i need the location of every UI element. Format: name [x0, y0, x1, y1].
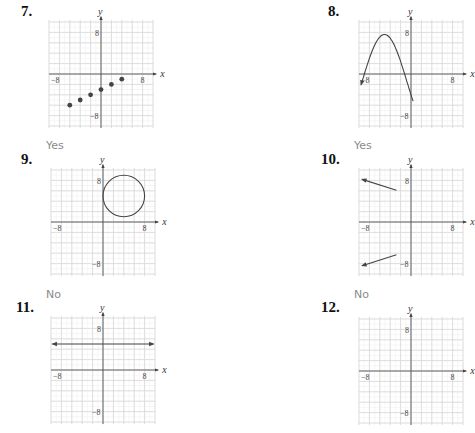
y-tick-pos: 8: [97, 325, 101, 334]
x-tick-neg: −8: [361, 373, 370, 382]
problem-10-answer: No: [354, 288, 369, 301]
x-axis-label: x: [469, 68, 475, 79]
x-tick-pos: 8: [451, 224, 455, 233]
x-tick-neg: −8: [51, 76, 60, 85]
data-point: [119, 77, 124, 82]
data-point: [109, 82, 114, 87]
problem-9-number: 9.: [21, 151, 32, 168]
problem-10-graph: −888−8xy: [355, 156, 475, 281]
x-tick-pos: 8: [143, 224, 147, 233]
data-point: [78, 98, 83, 103]
data-point: [67, 103, 72, 108]
x-tick-pos: 8: [451, 76, 455, 85]
x-axis-label: x: [469, 365, 475, 376]
problem-11-number: 11.: [16, 299, 34, 316]
x-axis-label: x: [161, 216, 167, 227]
y-tick-pos: 8: [97, 177, 101, 186]
y-tick-neg: −8: [400, 112, 409, 121]
problem-7-number: 7.: [21, 3, 32, 20]
curve: [361, 35, 413, 102]
x-axis-label: x: [161, 364, 167, 375]
x-axis-label: x: [159, 68, 165, 79]
problem-10-number: 10.: [321, 151, 340, 168]
x-tick-pos: 8: [143, 372, 147, 381]
y-axis-label: y: [407, 154, 413, 165]
y-tick-neg: −8: [90, 112, 99, 121]
y-tick-pos: 8: [405, 29, 409, 38]
lower-ray: [362, 255, 396, 266]
y-axis-label: y: [99, 302, 105, 313]
x-tick-pos: 8: [451, 373, 455, 382]
y-tick-neg: −8: [92, 408, 101, 417]
problem-12-number: 12.: [321, 299, 340, 316]
problem-7-graph: −888−8xy: [45, 8, 165, 133]
y-tick-neg: −8: [400, 409, 409, 418]
y-tick-pos: 8: [405, 326, 409, 335]
problem-12-graph: −888−8xy: [355, 305, 475, 430]
upper-ray: [362, 179, 396, 190]
x-axis-label: x: [469, 216, 475, 227]
y-tick-pos: 8: [405, 177, 409, 186]
y-tick-pos: 8: [95, 29, 99, 38]
problem-9-graph: −888−8xy: [47, 156, 167, 281]
x-tick-neg: −8: [53, 224, 62, 233]
problem-9-answer: No: [46, 288, 61, 301]
data-point: [99, 87, 104, 92]
y-axis-label: y: [99, 154, 105, 165]
problem-8-number: 8.: [328, 3, 339, 20]
y-axis-label: y: [407, 6, 413, 17]
x-tick-neg: −8: [361, 224, 370, 233]
y-tick-neg: −8: [400, 260, 409, 269]
x-tick-neg: −8: [53, 372, 62, 381]
problem-7-answer: Yes: [46, 139, 64, 152]
problem-8-answer: Yes: [354, 139, 372, 152]
x-tick-pos: 8: [141, 76, 145, 85]
y-axis-label: y: [407, 303, 413, 314]
problem-11-graph: −888−8xy: [47, 304, 167, 429]
problem-8-graph: −888−8xy: [355, 8, 475, 133]
data-point: [88, 92, 93, 97]
y-tick-neg: −8: [92, 260, 101, 269]
y-axis-label: y: [97, 6, 103, 17]
